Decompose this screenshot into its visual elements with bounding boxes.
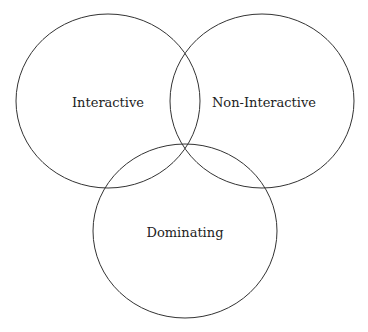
label-interactive: Interactive <box>72 95 144 110</box>
venn-diagram: Interactive Non-Interactive Dominating <box>0 0 368 332</box>
label-non-interactive: Non-Interactive <box>212 95 316 110</box>
label-dominating: Dominating <box>147 225 224 240</box>
